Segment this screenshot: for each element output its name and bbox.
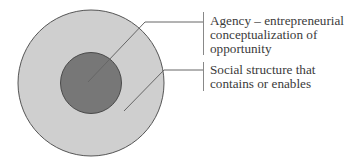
label-agency: Agency – entrepreneurial conceptualizati… [210,14,344,56]
label-social-structure-line-1: Social structure that [210,63,315,77]
label-social-structure: Social structure that contains or enable… [210,63,315,91]
label-agency-line-2: conceptualization of [210,28,344,42]
label-social-structure-line-2: contains or enables [210,77,315,91]
label-agency-line-3: opportunity [210,42,344,56]
label-agency-line-1: Agency – entrepreneurial [210,14,344,28]
inner-circle-agency [61,53,122,114]
